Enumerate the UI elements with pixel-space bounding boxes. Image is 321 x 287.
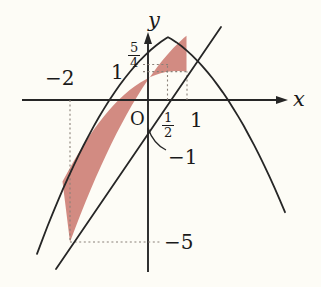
origin-label: O xyxy=(130,110,145,128)
fraction-numerator: 5 xyxy=(128,41,140,55)
x-axis-arrowhead xyxy=(276,96,288,104)
x-tick-label-one: 1 xyxy=(190,110,203,130)
fraction-numerator: 1 xyxy=(162,111,174,125)
y-tick-label-five-fourths: 5 4 xyxy=(128,42,140,70)
x-tick-label-one-half: 1 2 xyxy=(162,112,174,140)
x-axis-label: x xyxy=(293,89,305,110)
y-axis-label: y xyxy=(148,10,160,31)
fraction-five-fourths: 5 4 xyxy=(128,41,140,69)
fraction-one-half: 1 2 xyxy=(162,111,174,139)
y-tick-label-neg-one: −1 xyxy=(168,147,197,167)
x-tick-label-neg-two: −2 xyxy=(45,68,74,88)
y-tick-label-neg-five: −5 xyxy=(164,232,193,252)
y-tick-label-one: 1 xyxy=(111,62,124,82)
fraction-denominator: 2 xyxy=(162,125,174,140)
fraction-denominator: 4 xyxy=(128,55,140,70)
y-axis-arrowhead xyxy=(144,32,152,44)
plot-canvas xyxy=(0,0,321,287)
math-figure: y x O −2 1 2 1 1 5 4 −1 −5 xyxy=(0,0,321,287)
